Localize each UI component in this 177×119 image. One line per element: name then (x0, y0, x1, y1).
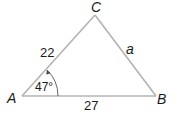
side-label-ac: 22 (40, 45, 54, 60)
vertex-label-c: C (91, 0, 102, 15)
side-ac (22, 15, 95, 96)
side-label-ab: 27 (84, 98, 98, 113)
angle-label-a: 47° (35, 80, 53, 94)
triangle-diagram: A B C 22 27 a 47° (0, 0, 177, 119)
side-label-bc: a (126, 41, 134, 57)
vertex-label-a: A (6, 90, 16, 106)
vertex-label-b: B (157, 91, 166, 107)
angle-arrow-icon (46, 70, 50, 75)
